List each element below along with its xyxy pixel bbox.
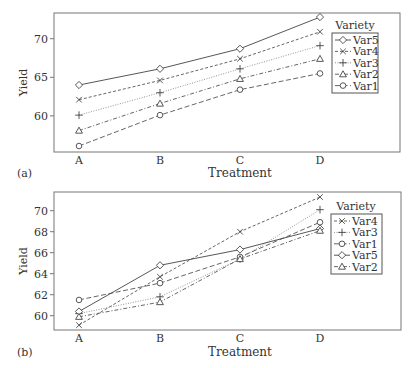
y-axis-a: 606570 bbox=[34, 33, 54, 123]
x-marker-icon bbox=[317, 29, 323, 35]
x-tick-label: A bbox=[74, 332, 84, 345]
circle-marker-icon bbox=[317, 71, 323, 77]
x-tick-label: C bbox=[236, 332, 244, 345]
diamond-marker-icon bbox=[316, 13, 323, 20]
series-var5 bbox=[75, 13, 323, 88]
circle-marker-icon bbox=[76, 297, 82, 303]
y-axis-label-a: Yield bbox=[17, 69, 30, 98]
diamond-marker-icon bbox=[236, 246, 243, 253]
circle-legend-icon bbox=[340, 83, 346, 89]
x-tick-label: B bbox=[156, 332, 164, 345]
x-axis-a: ABCD bbox=[74, 154, 325, 167]
y-tick-label: 68 bbox=[34, 226, 48, 239]
legend-label: Var2 bbox=[351, 261, 378, 274]
x-marker-icon bbox=[237, 56, 243, 62]
diamond-marker-icon bbox=[75, 81, 82, 88]
series-line bbox=[79, 32, 320, 100]
y-tick-label: 70 bbox=[34, 33, 48, 46]
plus-marker-icon bbox=[236, 65, 244, 73]
series-var2 bbox=[76, 55, 324, 133]
circle-legend-icon bbox=[339, 241, 345, 247]
series-line bbox=[79, 46, 320, 116]
series-line bbox=[79, 59, 320, 131]
y-tick-label: 66 bbox=[34, 247, 48, 260]
figure: 606570 ABCD Yield Treatment (a) VarietyV… bbox=[0, 0, 416, 368]
diamond-marker-icon bbox=[156, 65, 163, 72]
plus-marker-icon bbox=[316, 206, 324, 214]
diamond-marker-icon bbox=[236, 45, 243, 52]
x-axis-label-b: Treatment bbox=[208, 345, 272, 359]
x-axis-b: ABCD bbox=[74, 332, 325, 345]
y-axis-b: 606264666870 bbox=[34, 205, 54, 323]
plus-marker-icon bbox=[75, 111, 83, 119]
panel-label-b: (b) bbox=[17, 346, 33, 359]
y-tick-label: 70 bbox=[34, 205, 48, 218]
series-var2 bbox=[76, 227, 324, 319]
series-var3 bbox=[75, 206, 324, 318]
diamond-marker-icon bbox=[156, 262, 163, 269]
x-axis-label-a: Treatment bbox=[208, 166, 272, 180]
y-tick-label: 60 bbox=[34, 110, 48, 123]
plus-marker-icon bbox=[316, 42, 324, 50]
legend-a: VarietyVar5Var4Var3Var2Var1 bbox=[332, 19, 379, 93]
series-group-a bbox=[75, 13, 324, 148]
y-tick-label: 64 bbox=[34, 268, 48, 281]
x-tick-label: B bbox=[156, 154, 164, 167]
series-line bbox=[79, 197, 320, 325]
plus-marker-icon bbox=[156, 89, 164, 97]
series-group-b bbox=[75, 194, 324, 328]
series-var1 bbox=[76, 219, 323, 302]
y-tick-label: 65 bbox=[34, 71, 48, 84]
circle-marker-icon bbox=[157, 280, 163, 286]
legend-title: Variety bbox=[334, 19, 375, 32]
circle-marker-icon bbox=[317, 219, 323, 225]
series-var4 bbox=[76, 194, 323, 328]
series-line bbox=[79, 210, 320, 314]
x-marker-icon bbox=[157, 274, 163, 280]
series-line bbox=[79, 17, 320, 85]
series-line bbox=[79, 73, 320, 146]
x-tick-label: D bbox=[316, 332, 325, 345]
circle-marker-icon bbox=[157, 112, 163, 118]
chart-panel-a: 606570 ABCD Yield Treatment (a) VarietyV… bbox=[17, 13, 400, 180]
series-var1 bbox=[76, 71, 323, 149]
x-tick-label: A bbox=[74, 154, 84, 167]
legend-title: Variety bbox=[335, 200, 376, 213]
series-line bbox=[79, 222, 320, 300]
x-tick-label: D bbox=[316, 154, 325, 167]
y-tick-label: 62 bbox=[34, 289, 48, 302]
x-marker-icon bbox=[157, 78, 163, 84]
legend-label: Var1 bbox=[352, 80, 379, 93]
y-tick-label: 60 bbox=[34, 310, 48, 323]
x-marker-icon bbox=[76, 322, 82, 328]
triangle-marker-icon bbox=[157, 299, 164, 305]
x-marker-icon bbox=[237, 229, 243, 235]
panel-label-a: (a) bbox=[17, 167, 32, 180]
x-marker-icon bbox=[317, 194, 323, 200]
chart-panel-b: 606264666870 ABCD Yield Treatment (b) Va… bbox=[17, 192, 401, 359]
circle-marker-icon bbox=[76, 143, 82, 149]
legend-b: VarietyVar4Var3Var1Var5Var2 bbox=[331, 200, 382, 274]
y-axis-label-b: Yield bbox=[17, 247, 30, 276]
circle-marker-icon bbox=[237, 87, 243, 93]
triangle-marker-icon bbox=[317, 55, 324, 61]
